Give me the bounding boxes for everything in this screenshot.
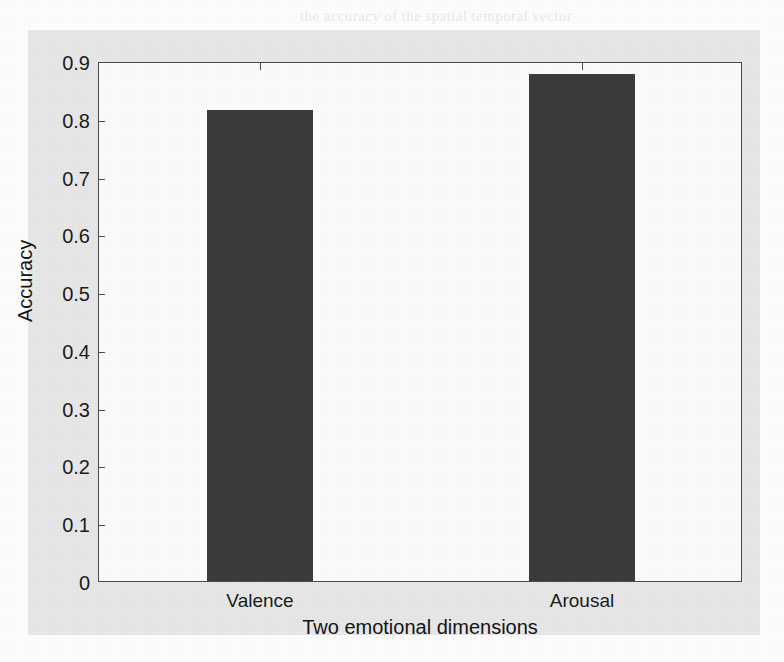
bar xyxy=(207,110,313,581)
y-tick-label: 0.7 xyxy=(62,167,90,190)
y-tick-label: 0.6 xyxy=(62,225,90,248)
bleed-text-line: the accuracy of the spatial temporal vec… xyxy=(300,8,572,25)
y-axis-label: Accuracy xyxy=(14,240,37,322)
y-tick-mark xyxy=(99,236,105,237)
y-tick-mark xyxy=(99,121,105,122)
x-tick-mark xyxy=(582,63,583,70)
y-tick-label: 0.9 xyxy=(62,52,90,75)
y-tick-mark xyxy=(99,525,105,526)
y-tick-label: 0 xyxy=(79,572,90,595)
x-tick-mark xyxy=(260,63,261,70)
y-tick-mark xyxy=(99,467,105,468)
y-tick-mark xyxy=(99,352,105,353)
y-tick-label: 0.1 xyxy=(62,514,90,537)
x-tick-label: Valence xyxy=(226,590,293,612)
y-tick-label: 0.3 xyxy=(62,398,90,421)
y-tick-label: 0.4 xyxy=(62,340,90,363)
y-tick-label: 0.5 xyxy=(62,283,90,306)
bar xyxy=(529,74,635,581)
y-tick-label: 0.2 xyxy=(62,456,90,479)
x-axis-label: Two emotional dimensions xyxy=(98,616,742,639)
y-tick-mark xyxy=(99,410,105,411)
bar-chart-figure: Accuracy 00.10.20.30.40.50.60.70.80.9 Va… xyxy=(28,30,760,635)
y-tick-label: 0.8 xyxy=(62,109,90,132)
y-tick-mark xyxy=(99,294,105,295)
x-tick-label: Arousal xyxy=(550,590,614,612)
y-tick-mark xyxy=(99,179,105,180)
plot-axes: 00.10.20.30.40.50.60.70.80.9 ValenceArou… xyxy=(98,62,742,582)
